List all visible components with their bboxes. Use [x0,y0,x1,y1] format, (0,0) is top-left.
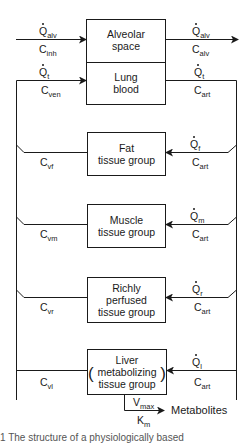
q-alv-out-label: Qalv [192,26,210,41]
metabolites-label: Metabolites [171,405,227,416]
c-ven-label: Cven [41,85,61,100]
c-vr-label: Cvr [40,302,54,317]
alveolar-space-label: Alveolarspace [86,28,166,52]
c-art-muscle-label: Cart [192,229,208,244]
c-art-fat-label: Cart [192,157,208,172]
q-l-label: Ql [192,357,202,372]
km-label: Km [137,415,150,430]
figure-caption-cut: 1 The structure of a physiologically bas… [0,432,248,443]
q-m-label: Qm [190,211,204,226]
q-r-label: Qr [192,284,203,299]
vmax-label: Vmax [133,397,154,412]
lung-blood-label: Lungblood [86,71,166,95]
liver-label: Liver ( metabolizing ) tissue group [87,354,167,390]
q-alv-in-label: Qalv [39,26,57,41]
q-t-in-label: Qt [39,67,49,82]
q-t-out-label: Qt [194,67,204,82]
c-art-liver-label: Cart [194,377,210,392]
muscle-tissue-label: Muscletissue group [87,214,166,238]
c-vl-label: Cvl [40,377,53,392]
c-vf-label: Cvf [40,157,53,172]
c-vm-label: Cvm [40,229,58,244]
fat-tissue-label: Fattissue group [87,142,166,166]
c-art-richly-label: Cart [194,302,210,317]
c-inh-label: Cinh [39,44,57,59]
c-alv-label: Calv [192,44,209,59]
q-f-label: Qf [190,139,200,154]
c-art-lung-label: Cart [194,85,210,100]
richly-perfused-label: Richlyperfusedtissue group [87,282,166,318]
